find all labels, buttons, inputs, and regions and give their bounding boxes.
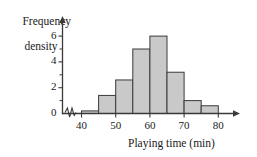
histogram-bar bbox=[150, 36, 167, 113]
histogram-figure: Frequency density Playing time (min) 0 2… bbox=[0, 0, 257, 157]
plot-area bbox=[0, 0, 257, 157]
axis-break-zigzag-icon bbox=[65, 108, 76, 117]
histogram-bar bbox=[184, 101, 201, 114]
histogram-bar bbox=[99, 95, 116, 113]
histogram-bar bbox=[133, 49, 150, 114]
histogram-bars bbox=[82, 36, 219, 113]
histogram-bar bbox=[201, 106, 218, 114]
histogram-bar bbox=[116, 80, 133, 114]
x-axis-arrow bbox=[233, 110, 240, 116]
histogram-bar bbox=[167, 72, 184, 113]
y-axis-arrow bbox=[59, 16, 65, 23]
